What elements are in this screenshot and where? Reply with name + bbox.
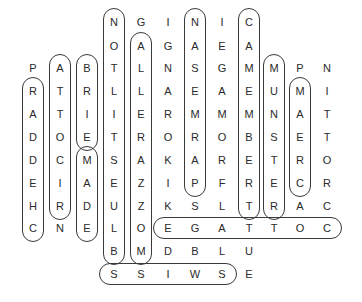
grid-letter[interactable]: S [185, 196, 205, 216]
found-word-outline [130, 32, 152, 265]
grid-letter[interactable]: G [158, 36, 178, 56]
grid-letter[interactable]: R [317, 173, 337, 193]
grid-letter[interactable]: A [212, 81, 232, 101]
found-word-outline [184, 8, 206, 197]
grid-letter[interactable]: K [158, 196, 178, 216]
grid-letter[interactable]: C [317, 196, 337, 216]
grid-letter[interactable]: I [317, 81, 337, 101]
grid-letter[interactable]: I [158, 12, 178, 32]
found-word-outline [153, 217, 342, 239]
grid-letter[interactable]: I [212, 12, 232, 32]
grid-letter[interactable]: O [212, 127, 232, 147]
grid-letter[interactable]: P [23, 58, 43, 78]
grid-letter[interactable]: T [317, 104, 337, 124]
found-word-outline [289, 77, 311, 197]
grid-letter[interactable]: P [290, 58, 310, 78]
grid-letter[interactable]: L [212, 196, 232, 216]
grid-letter[interactable]: R [212, 150, 232, 170]
grid-letter[interactable]: O [317, 150, 337, 170]
grid-letter[interactable]: G [212, 58, 232, 78]
grid-letter[interactable]: B [185, 241, 205, 261]
grid-letter[interactable]: T [317, 127, 337, 147]
found-word-outline [49, 54, 71, 220]
grid-letter[interactable]: F [212, 173, 232, 193]
found-word-outline [238, 8, 260, 220]
grid-letter[interactable]: N [317, 58, 337, 78]
word-search-grid: NGINICOAGAEAPABTLNSGMMPNRTRLLAEAEUMIATII… [0, 0, 362, 302]
found-word-outline [99, 263, 237, 285]
found-word-outline [103, 8, 125, 265]
grid-letter[interactable]: G [131, 12, 151, 32]
found-word-outline [76, 54, 98, 151]
grid-letter[interactable]: L [212, 241, 232, 261]
grid-letter[interactable]: M [212, 104, 232, 124]
grid-letter[interactable]: N [50, 218, 70, 238]
found-word-outline [263, 54, 285, 220]
grid-letter[interactable]: E [212, 36, 232, 56]
grid-letter[interactable]: R [158, 104, 178, 124]
grid-letter[interactable]: K [158, 150, 178, 170]
grid-letter[interactable]: D [158, 241, 178, 261]
grid-letter[interactable]: U [239, 241, 259, 261]
grid-letter[interactable]: E [239, 264, 259, 284]
grid-letter[interactable]: I [158, 173, 178, 193]
found-word-outline [22, 77, 44, 242]
grid-letter[interactable]: A [290, 196, 310, 216]
grid-letter[interactable]: A [158, 81, 178, 101]
found-word-outline [76, 146, 98, 242]
grid-letter[interactable]: N [158, 58, 178, 78]
grid-letter[interactable]: O [158, 127, 178, 147]
